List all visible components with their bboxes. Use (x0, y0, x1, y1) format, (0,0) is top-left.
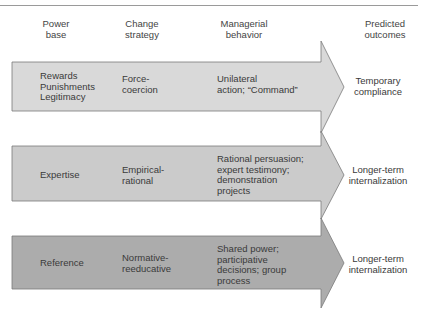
row1-power-base-line3: Legitimacy (40, 92, 95, 103)
row1-change-strategy-line1: Force- (122, 74, 158, 85)
row1-change-strategy: Force- coercion (122, 74, 158, 95)
row2-managerial-behavior-line1: Rational persuasion; (217, 154, 304, 165)
row2-power-base-line1: Expertise (40, 170, 80, 181)
row3-predicted-outcome-line1: Longer-term (338, 254, 418, 265)
row1-predicted-outcome: Temporary compliance (338, 76, 418, 97)
row3-managerial-behavior: Shared power; participative decisions; g… (217, 244, 286, 286)
row3-power-base: Reference (40, 258, 84, 269)
row2-managerial-behavior-line4: projects (217, 186, 304, 197)
row3-predicted-outcome: Longer-term internalization (338, 254, 418, 275)
row2-change-strategy-line2: rational (122, 176, 164, 187)
row1-managerial-behavior: Unilateral action; “Command” (217, 74, 298, 95)
row3-managerial-behavior-line1: Shared power; (217, 244, 286, 255)
row3-managerial-behavior-line3: decisions; group (217, 265, 286, 276)
row1-power-base: Rewards Punishments Legitimacy (40, 71, 95, 103)
row2-managerial-behavior-line3: demonstration (217, 175, 304, 186)
row1-power-base-line1: Rewards (40, 71, 95, 82)
row2-predicted-outcome-line2: internalization (338, 176, 418, 187)
row2-predicted-outcome-line1: Longer-term (338, 165, 418, 176)
row3-change-strategy-line2: reeducative (122, 264, 171, 275)
row1-managerial-behavior-line2: action; “Command” (217, 85, 298, 96)
row2-change-strategy: Empirical- rational (122, 165, 164, 186)
row1-managerial-behavior-line1: Unilateral (217, 74, 298, 85)
row2-predicted-outcome: Longer-term internalization (338, 165, 418, 186)
row2-managerial-behavior: Rational persuasion; expert testimony; d… (217, 154, 304, 196)
row2-power-base: Expertise (40, 170, 80, 181)
row3-change-strategy-line1: Normative- (122, 253, 171, 264)
row3-change-strategy: Normative- reeducative (122, 253, 171, 274)
row3-managerial-behavior-line4: process (217, 276, 286, 287)
row2-change-strategy-line1: Empirical- (122, 165, 164, 176)
row3-power-base-line1: Reference (40, 258, 84, 269)
row1-predicted-outcome-line2: compliance (338, 87, 418, 98)
row1-predicted-outcome-line1: Temporary (338, 76, 418, 87)
row1-change-strategy-line2: coercion (122, 85, 158, 96)
row3-predicted-outcome-line2: internalization (338, 265, 418, 276)
